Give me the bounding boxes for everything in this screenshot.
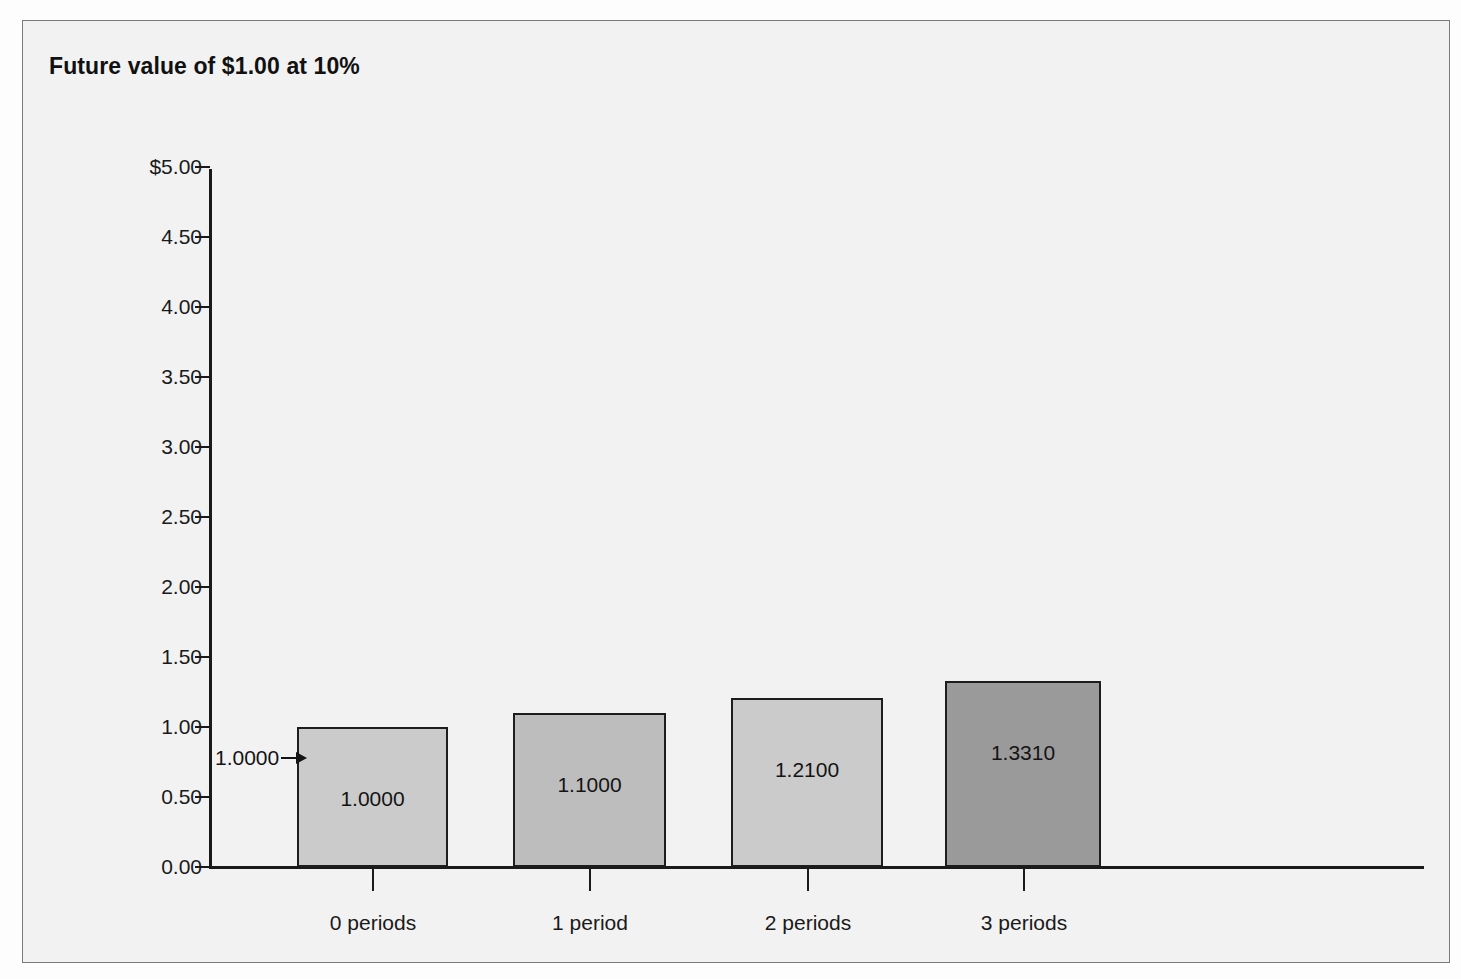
y-axis-tick-label: 1.50 — [161, 646, 202, 667]
y-axis-tick-label: 3.00 — [161, 436, 202, 457]
y-axis-tick-label: 4.00 — [161, 296, 202, 317]
bar-2-periods[interactable]: 1.2100 — [731, 698, 883, 867]
x-axis-category-label: 2 periods — [765, 911, 851, 935]
bar-value-label: 1.2100 — [733, 758, 881, 782]
bar-1-period[interactable]: 1.1000 — [513, 713, 666, 867]
x-axis-tick — [1023, 869, 1025, 891]
bar-value-label: 1.1000 — [515, 773, 664, 797]
x-axis-category-label: 3 periods — [981, 911, 1067, 935]
annotation-label: 1.0000 — [215, 746, 279, 770]
plot-area: $5.00 4.50 4.00 3.50 3.00 2.50 2.00 1.50… — [23, 21, 1451, 964]
bar-value-label: 1.3310 — [947, 741, 1099, 765]
y-axis-tick-label: 2.00 — [161, 576, 202, 597]
bar-value-label: 1.0000 — [299, 787, 446, 811]
x-axis-category-label: 0 periods — [330, 911, 416, 935]
arrow-right-icon — [281, 752, 307, 764]
x-axis-tick — [589, 869, 591, 891]
y-axis-tick-label: 1.00 — [161, 716, 202, 737]
y-axis-tick-label: 4.50 — [161, 226, 202, 247]
y-axis-tick-label: 0.50 — [161, 786, 202, 807]
bar-0-periods[interactable]: 1.0000 — [297, 727, 448, 867]
figure-root: Future value of $1.00 at 10% $5.00 4.50 … — [0, 0, 1461, 979]
x-axis-tick — [372, 869, 374, 891]
x-axis-tick — [807, 869, 809, 891]
figure-frame: Future value of $1.00 at 10% $5.00 4.50 … — [22, 20, 1450, 963]
y-axis-tick-label: 2.50 — [161, 506, 202, 527]
y-axis-line — [209, 169, 212, 869]
y-axis-tick-label: 0.00 — [161, 856, 202, 877]
y-axis-tick-label: $5.00 — [149, 156, 202, 177]
annotation-callout: 1.0000 — [215, 746, 307, 770]
y-axis-tick-label: 3.50 — [161, 366, 202, 387]
bar-3-periods[interactable]: 1.3310 — [945, 681, 1101, 867]
x-axis-category-label: 1 period — [552, 911, 628, 935]
